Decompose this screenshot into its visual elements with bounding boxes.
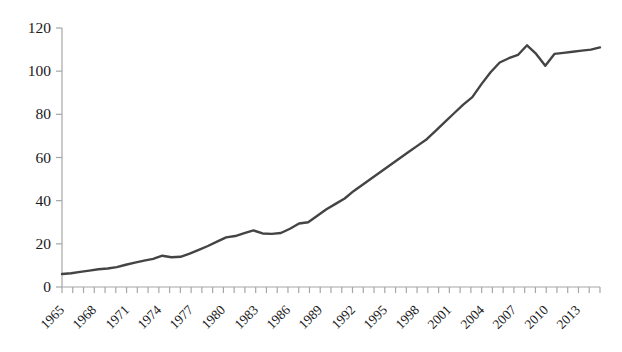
y-tick-label: 0 (43, 279, 51, 295)
axis-lines (62, 28, 600, 287)
line-chart: 020406080100120 196519681971197419771980… (0, 0, 622, 352)
y-tick-label: 120 (28, 20, 51, 36)
y-tick-label: 40 (36, 193, 52, 209)
y-tick-label: 60 (36, 150, 52, 166)
data-series-line (62, 45, 600, 274)
x-tick-marks (62, 287, 600, 293)
chart-canvas (0, 0, 622, 352)
y-tick-marks (56, 28, 62, 287)
y-tick-label: 100 (28, 63, 51, 79)
y-tick-label: 80 (36, 106, 52, 122)
y-tick-label: 20 (36, 236, 52, 252)
